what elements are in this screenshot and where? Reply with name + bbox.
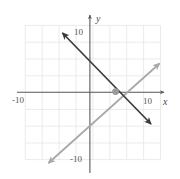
series-ascending-line [49,64,160,164]
x-axis-label: x [163,97,167,107]
coordinate-plane-figure: y x 10 -10 -10 10 [0,0,180,179]
plot-canvas [0,0,180,179]
y-axis-tick-label-negative-10: -10 [70,155,82,164]
x-axis-tick-label-negative-10: -10 [12,96,24,105]
y-axis-label: y [96,14,100,24]
intersection-point-dot [112,88,119,95]
x-axis-tick-label-10: 10 [143,97,152,106]
y-axis-tick-label-10: 10 [74,28,83,37]
axes [17,15,164,173]
